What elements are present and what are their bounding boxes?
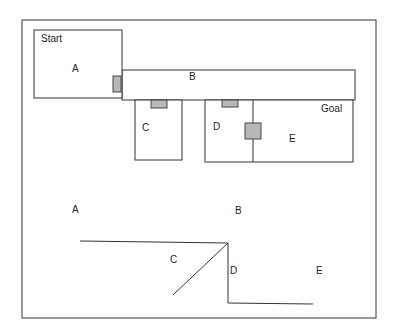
node-b-label: B xyxy=(235,205,242,216)
room-a-label: A xyxy=(72,63,79,74)
node-a-label: A xyxy=(72,204,79,215)
node-c-label: C xyxy=(170,254,177,265)
node-d-label: D xyxy=(230,265,237,276)
room-d-label: D xyxy=(213,121,220,132)
goal-label: Goal xyxy=(321,103,342,114)
door-a-b xyxy=(113,76,121,92)
node-e-label: E xyxy=(316,265,323,276)
room-c-label: C xyxy=(142,122,149,133)
diagram-canvas: Start A B C D E Goal A B C D E xyxy=(0,0,394,331)
door-b-c xyxy=(151,100,167,108)
door-b-d xyxy=(222,100,238,107)
start-label: Start xyxy=(41,33,62,44)
door-d-e xyxy=(245,123,261,139)
room-b xyxy=(122,70,355,100)
room-e-label: E xyxy=(289,133,296,144)
room-b-label: B xyxy=(189,71,196,82)
